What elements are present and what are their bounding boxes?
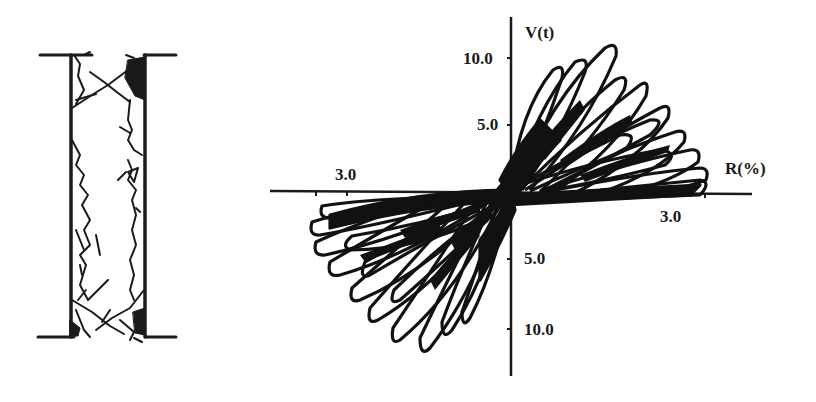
specimen-sketch [38,52,176,342]
x-axis-label: R(%) [725,160,766,177]
y-axis-label: V(t) [525,24,554,41]
hysteresis-loops [311,45,707,351]
x-tick-left: 3.0 [335,166,356,183]
y-tick-5-neg: 5.0 [524,250,545,267]
figure [0,0,816,402]
y-tick-10-neg: 10.0 [524,321,554,338]
y-tick-5-pos: 5.0 [477,116,498,133]
y-tick-10-pos: 10.0 [463,50,493,67]
x-tick-right: 3.0 [660,208,681,225]
